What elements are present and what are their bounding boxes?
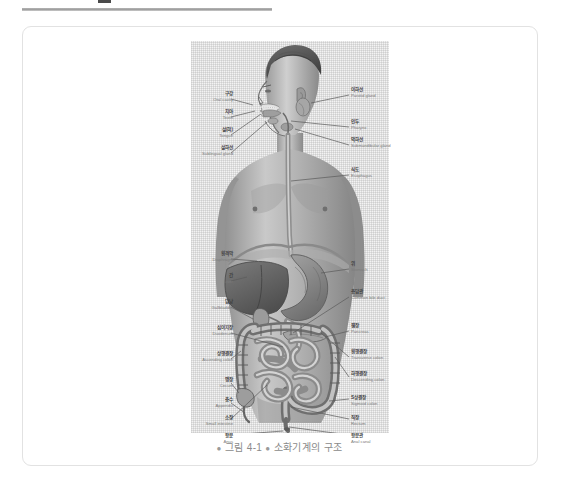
label-sublingual-gland: 설하선 Sublingual gland (202, 145, 233, 156)
label-group-right: 이하선 Parotid gland 인두 Pharynx 악하선 Submand… (349, 41, 397, 433)
label-oral-cavity: 구강 Oral cavity (213, 91, 233, 102)
top-crop-mark (98, 0, 111, 3)
label-parotid-gland: 이하선 Parotid gland (351, 87, 376, 98)
label-esophagus: 식도 Esophagus (351, 167, 372, 178)
label-liver: 간 Liver (224, 273, 233, 284)
label-diaphragm: 횡격막 Diaphragm (213, 251, 233, 262)
content-card: 구강 Oral cavity 치아 Teeth 설(혀) Tongue 설하선 … (22, 26, 538, 466)
caption-bullet-right: ● (265, 444, 270, 453)
label-appendix: 충수 Appendix (216, 397, 233, 408)
label-teeth: 치아 Teeth (223, 109, 233, 120)
label-duodenum: 십이지장 Duodenum (213, 325, 234, 336)
label-group-left: 구강 Oral cavity 치아 Teeth 설(혀) Tongue 설하선 … (189, 41, 233, 433)
figure-caption: ●그림 4-1●소화기계의 구조 (23, 439, 539, 454)
label-ascending-colon: 상행결장 Ascending colon (202, 351, 233, 362)
label-common-bile-duct: 총담관 Common bile duct (351, 289, 389, 300)
liver-shape (225, 262, 289, 316)
label-cecum: 맹장 Cecum (220, 377, 233, 388)
label-pancreas: 첌장 Pancreas (351, 323, 369, 334)
label-sigmoid-colon: S상결장 Sigmoid colon (351, 395, 377, 406)
label-tongue: 설(혀) Tongue (219, 127, 233, 138)
label-rectum: 직장 Rectum (351, 415, 365, 426)
label-pharynx: 인두 Pharynx (351, 119, 366, 130)
label-gallbladder: 담낭 Gallbladder (212, 299, 233, 310)
caption-number: 그림 4-1 (225, 442, 263, 453)
label-submandibular-gland: 악하선 Submandibular gland (351, 137, 391, 148)
label-descending-colon: 하행결장 Descending colon (351, 371, 389, 382)
figure-block: 구강 Oral cavity 치아 Teeth 설(혀) Tongue 설하선 … (191, 41, 389, 433)
label-transverse-colon: 횡행결장 Transverse colon (351, 349, 389, 360)
caption-bullet-left: ● (216, 444, 221, 453)
header-divider (22, 8, 272, 11)
label-stomach: 위 Stomach (351, 261, 368, 272)
head-shape (258, 45, 321, 136)
label-small-intestine: 소장 Small intestine (206, 415, 233, 426)
caption-title: 소화기계의 구조 (274, 442, 343, 453)
